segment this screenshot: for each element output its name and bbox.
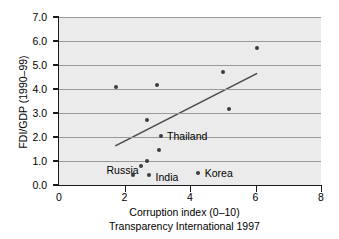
y-axis-tick [53,160,59,161]
point-annotation-india: India [156,171,179,183]
gridline [59,41,321,42]
y-axis-tick [53,16,59,17]
y-axis-tick [53,88,59,89]
gridline [59,17,321,18]
point-annotation-thailand: Thailand [167,130,207,142]
gridline [59,89,321,90]
point-annotation-russia: Russia [106,164,138,176]
y-axis-tick [53,136,59,137]
y-axis-tick-label: 7.0 [7,12,47,23]
gridline [59,161,321,162]
y-axis-tick [53,64,59,65]
point-annotation-korea: Korea [205,167,233,179]
gridline [59,65,321,66]
y-axis-tick-label: 6.0 [7,36,47,47]
x-axis-tick-label: 0 [44,192,74,203]
x-axis-title: Corruption index (0–10) [0,206,339,218]
data-point [159,134,163,138]
scatter-chart-figure: FDI/GDP (1990–99) Corruption index (0–10… [0,0,339,239]
x-axis-tick-label: 4 [175,192,205,203]
data-point [139,164,143,168]
x-axis-tick-label: 8 [306,192,336,203]
data-point [221,70,225,74]
y-axis-tick [53,184,59,185]
y-axis-tick-label: 0.0 [7,180,47,191]
x-axis-tick-label: 6 [241,192,271,203]
y-axis-tick-label: 5.0 [7,60,47,71]
y-axis-tick-label: 3.0 [7,108,47,119]
plot-area [59,17,321,185]
gridline [59,113,321,114]
y-axis-tick [53,112,59,113]
y-axis-tick-label: 1.0 [7,156,47,167]
y-axis-tick [53,40,59,41]
x-axis-tick-label: 2 [110,192,140,203]
y-axis-tick-label: 4.0 [7,84,47,95]
y-axis-tick-label: 2.0 [7,132,47,143]
x-axis-source-caption: Transparency International 1997 [0,220,339,232]
data-point [114,85,118,89]
